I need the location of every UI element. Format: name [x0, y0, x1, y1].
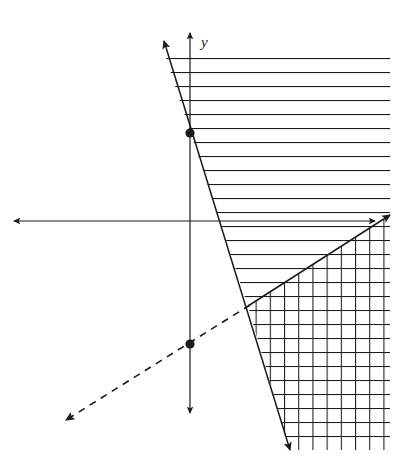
inequality-region-figure: y	[0, 0, 413, 472]
y-intercept-steep-line-point	[185, 128, 194, 137]
y-axis-label: y	[199, 34, 208, 50]
figure-canvas: y	[0, 0, 413, 472]
y-intercept-dashed-line-point	[185, 339, 194, 348]
